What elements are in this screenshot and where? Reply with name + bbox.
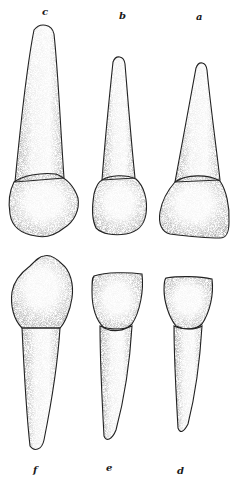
tooth-e — [92, 273, 143, 440]
teeth-illustration: c b a f e d — [0, 0, 245, 482]
label-e: e — [106, 463, 112, 473]
tooth-c — [9, 25, 78, 237]
label-b: b — [119, 11, 126, 21]
teeth-drawing — [0, 0, 245, 482]
label-a: a — [196, 12, 202, 22]
tooth-d — [164, 277, 213, 432]
label-d: d — [177, 466, 184, 476]
label-c: c — [42, 7, 48, 17]
tooth-a — [159, 63, 229, 238]
tooth-f — [11, 255, 72, 449]
label-f: f — [33, 465, 37, 475]
tooth-b — [93, 57, 147, 235]
